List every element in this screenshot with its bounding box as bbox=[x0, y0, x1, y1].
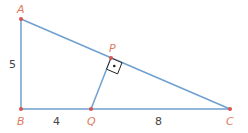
label-q: Q bbox=[87, 115, 96, 128]
point-b bbox=[19, 107, 23, 111]
label-c: C bbox=[226, 115, 234, 128]
length-qc: 8 bbox=[155, 115, 162, 128]
length-ab: 5 bbox=[9, 58, 16, 71]
triangle-diagram: A B Q C P 5 4 8 bbox=[0, 0, 248, 133]
segment-ac bbox=[21, 19, 230, 109]
label-b: B bbox=[17, 115, 25, 128]
length-bq: 4 bbox=[53, 115, 60, 128]
point-q bbox=[89, 107, 93, 111]
label-p: P bbox=[109, 42, 116, 55]
label-a: A bbox=[16, 3, 25, 16]
point-c bbox=[228, 107, 232, 111]
point-a bbox=[19, 17, 23, 21]
point-p bbox=[109, 56, 113, 60]
right-angle-marker bbox=[107, 58, 122, 74]
